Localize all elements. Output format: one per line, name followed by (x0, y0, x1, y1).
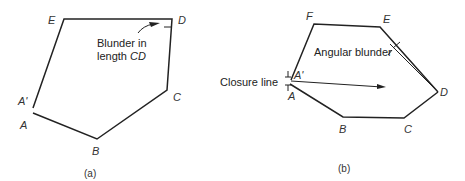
closure-arrow-head (377, 84, 386, 89)
vertex-label-a: A (19, 119, 27, 131)
closure-line-label: Closure line (220, 76, 278, 88)
vertex-label-b: B (339, 123, 346, 135)
blunder-arrow-head (149, 22, 160, 27)
vertex-label-a: A (287, 90, 295, 102)
vertex-label-b: B (92, 145, 99, 157)
annotation-cd: CD (130, 50, 146, 62)
caption-b: (b) (338, 163, 350, 174)
blunder-annotation-line1: Blunder in (97, 37, 147, 49)
angular-blunder-line (390, 44, 438, 92)
vertex-label-a-prime: A' (17, 95, 28, 107)
traverse-polygon-b-upper (291, 24, 438, 92)
vertex-label-e: E (383, 13, 391, 25)
closure-line (291, 81, 382, 87)
blunder-annotation-line2: length CD (97, 50, 146, 62)
panel-b: F E D C B A A' Angular blunder Closure l… (220, 10, 448, 174)
vertex-label-f: F (306, 10, 314, 22)
vertex-label-d: D (178, 14, 186, 26)
caption-a: (a) (84, 168, 96, 179)
traverse-polygon-b-lower (290, 84, 438, 118)
vertex-label-e: E (48, 14, 56, 26)
vertex-label-d: D (440, 86, 448, 98)
annotation-prefix: length (97, 50, 130, 62)
traverse-blunder-diagram: E D C B A A' Blunder in length CD (a) F … (0, 0, 465, 181)
vertex-label-c: C (404, 123, 412, 135)
panel-a: E D C B A A' Blunder in length CD (a) (17, 14, 186, 179)
angular-blunder-label: Angular blunder (314, 46, 392, 58)
vertex-label-c: C (173, 91, 181, 103)
vertex-label-a-prime: A' (293, 69, 304, 81)
